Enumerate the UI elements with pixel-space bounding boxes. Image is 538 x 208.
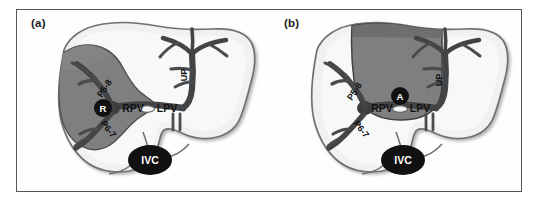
- panel-b-diagram: IVC A RPV LPV P5-8 P6-7 UP: [270, 10, 523, 193]
- rpv-label-b: RPV: [371, 102, 393, 114]
- lpv-label-a: LPV: [157, 102, 177, 114]
- figure-frame: (a): [16, 9, 522, 192]
- ivc-label-b: IVC: [394, 154, 412, 166]
- panel-a: (a): [17, 10, 270, 193]
- territory-marker-a: R: [94, 99, 112, 117]
- lpv-label-b: LPV: [410, 102, 430, 114]
- rpv-label-a: RPV: [122, 102, 144, 114]
- up-label-a: UP: [179, 69, 189, 82]
- ivc-label-a: IVC: [141, 154, 159, 166]
- figure-container: (a): [0, 0, 538, 208]
- panel-a-diagram: IVC R RPV LPV P5-8 P6-7 UP: [17, 10, 270, 193]
- liver-diagram-a: IVC R RPV LPV P5-8 P6-7 UP: [17, 10, 270, 193]
- ivc-marker-b: IVC: [381, 145, 425, 175]
- portal-confluence-oval-b: [393, 106, 408, 112]
- liver-diagram-b: IVC A RPV LPV P5-8 P6-7 UP: [270, 10, 523, 193]
- territory-marker-b: A: [391, 87, 409, 105]
- up-label-b: UP: [434, 74, 444, 87]
- territory-marker-letter-a: R: [100, 103, 107, 114]
- panel-b: (b): [270, 10, 523, 193]
- ivc-marker-a: IVC: [128, 145, 172, 175]
- territory-marker-letter-b: A: [397, 91, 404, 102]
